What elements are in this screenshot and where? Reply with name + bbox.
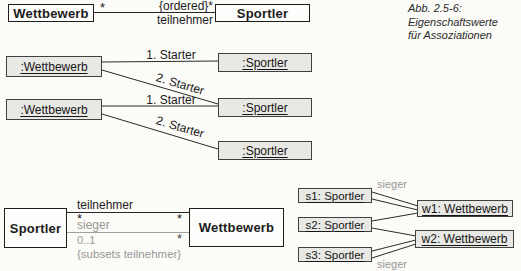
- object-name: :Sportler: [242, 144, 287, 158]
- link-label-starter1-a: 1. Starter: [135, 49, 207, 62]
- link-label-sieger-top: sieger: [377, 178, 407, 190]
- object-name: :Wettbewerb: [20, 60, 87, 74]
- object-name: s1: Sportler: [306, 190, 365, 202]
- object-box-w1: w1: Wettbewerb: [417, 200, 513, 217]
- association-name-teilnehmer-top: teilnehmer: [150, 14, 213, 27]
- link-s3-w2-sieger: [372, 244, 416, 258]
- object-name: :Sportler: [242, 56, 287, 70]
- class-box-sportler-top: Sportler: [215, 4, 310, 22]
- multiplicity-teilnehmer-right: *: [177, 212, 182, 226]
- object-name: :Sportler: [242, 101, 287, 115]
- link-s1-w1-teilnehmer: [372, 199, 418, 210]
- class-box-wettbewerb-bottom: Wettbewerb: [189, 208, 284, 247]
- link-s2-w1-teilnehmer: [372, 213, 418, 221]
- object-box-w2: w2: Wettbewerb: [415, 230, 514, 248]
- object-box-s3: s3: Sportler: [298, 247, 372, 262]
- class-name: Sportler: [10, 221, 61, 236]
- object-box-wettbewerb-2: :Wettbewerb: [6, 99, 102, 120]
- figure-caption: Abb. 2.5-6: Eigenschaftswerte für Assozi…: [408, 2, 498, 43]
- object-box-sportler-3: :Sportler: [218, 141, 312, 160]
- object-name: :Wettbewerb: [20, 103, 87, 117]
- object-name: s2: Sportler: [306, 219, 365, 231]
- caption-title-line1: Eigenschaftswerte: [408, 16, 498, 30]
- object-box-wettbewerb-1: :Wettbewerb: [6, 56, 102, 77]
- multiplicity-left-top: *: [100, 1, 105, 15]
- object-name: w1: Wettbewerb: [422, 202, 508, 216]
- class-name: Wettbewerb: [13, 6, 88, 21]
- multiplicity-sieger-right: *: [177, 232, 182, 246]
- class-name: Wettbewerb: [199, 220, 274, 235]
- object-name: w2: Wettbewerb: [422, 232, 508, 246]
- object-name: s3: Sportler: [306, 249, 365, 261]
- link-label-starter1-b: 1. Starter: [135, 94, 207, 107]
- constraint-subsets-teilnehmer: {subsets teilnehmer}: [77, 248, 181, 261]
- caption-title-line2: für Assoziationen: [408, 29, 498, 43]
- class-box-sportler-bottom: Sportler: [4, 208, 67, 248]
- class-box-wettbewerb-top: Wettbewerb: [8, 4, 94, 22]
- link-s3-w2-teilnehmer: [372, 240, 416, 251]
- class-name: Sportler: [237, 6, 288, 21]
- link-s2-w2-teilnehmer: [372, 228, 416, 236]
- multiplicity-right-top: {ordered}*: [150, 0, 213, 13]
- link-s1-w1-sieger: [372, 192, 418, 206]
- figure-canvas: Wettbewerb Sportler * {ordered}* teilneh…: [0, 0, 521, 271]
- object-box-s1: s1: Sportler: [298, 188, 372, 203]
- link-label-sieger-bottom: sieger: [377, 258, 407, 270]
- association-name-teilnehmer-bottom: teilnehmer: [77, 199, 133, 212]
- caption-number: Abb. 2.5-6:: [408, 2, 498, 16]
- multiplicity-sieger-left: 0..1: [77, 234, 95, 246]
- object-box-sportler-2: :Sportler: [218, 98, 312, 117]
- object-box-s2: s2: Sportler: [298, 217, 372, 232]
- association-name-sieger-bottom: sieger: [77, 219, 110, 232]
- object-box-sportler-1: :Sportler: [218, 53, 312, 72]
